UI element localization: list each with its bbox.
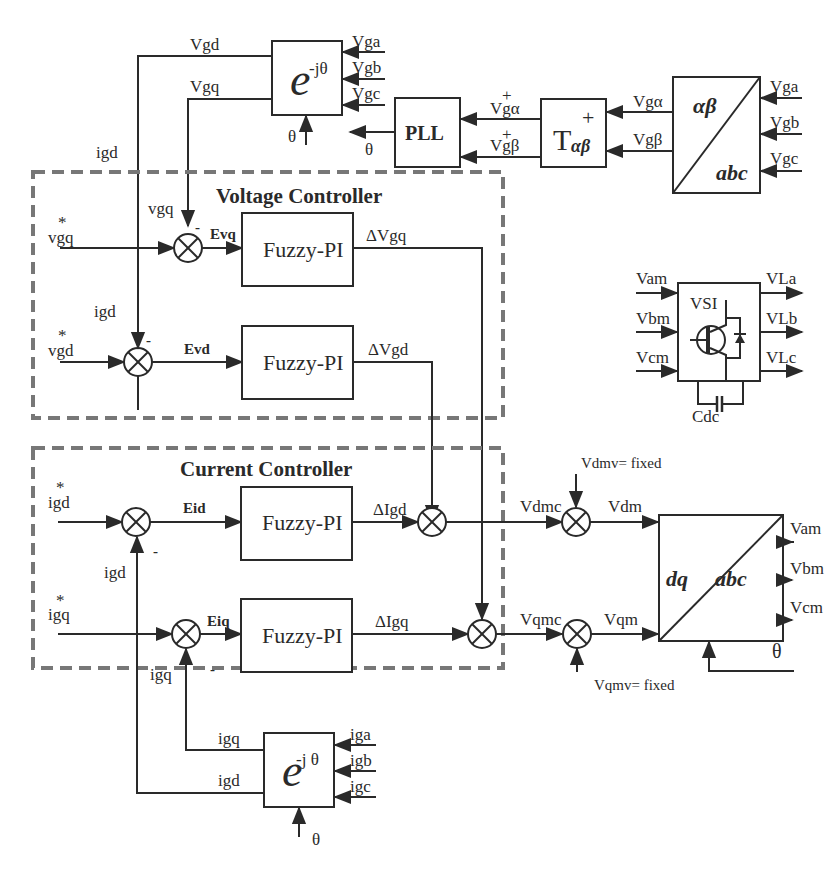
label-vgc: Vgc: [352, 84, 381, 103]
label-vgq-fb: vgq: [148, 199, 174, 218]
label-vqmv: Vqmv= fixed: [594, 677, 675, 693]
label-igq-out: igq: [218, 729, 240, 748]
label-igd-fb-vc: igd: [94, 302, 116, 321]
label-vlc: VLc: [766, 348, 797, 367]
clarke-bottom: abc: [716, 160, 748, 185]
star-igq: *: [56, 591, 65, 610]
star-vgq: *: [58, 213, 67, 232]
fuzzy-pi-vd-label: Fuzzy-PI: [263, 350, 344, 375]
label-evq: Evq: [210, 226, 237, 242]
label-theta-park-i: θ: [312, 830, 320, 849]
label-vdm: Vdm: [608, 497, 642, 516]
label-vqmc: Vqmc: [520, 610, 562, 629]
label-clarke-vgc: Vgc: [770, 149, 799, 168]
inverse-park-block: dq abc Vam Vbm Vcm θ: [659, 515, 824, 671]
label-igd-fb: igd: [104, 563, 126, 582]
label-out-vbm: Vbm: [790, 559, 824, 578]
t-sup: +: [582, 105, 594, 130]
label-vqm: Vqm: [604, 610, 638, 629]
inv-park-left: dq: [666, 566, 688, 591]
label-theta-inv: θ: [772, 640, 782, 662]
voltage-controller-title: Voltage Controller: [216, 184, 382, 208]
label-igb: igb: [350, 751, 372, 770]
label-theta-pll: θ: [365, 140, 373, 159]
fuzzy-pi-id-label: Fuzzy-PI: [262, 510, 343, 535]
minus-vgq: -: [195, 219, 200, 235]
label-vsi-vcm: Vcm: [636, 348, 669, 367]
minus-vgd: -: [146, 332, 151, 348]
park-transform-current: e -j θ iga igb igc θ igq igd: [137, 537, 376, 849]
t-label: T: [553, 123, 571, 156]
label-vg-beta: Vgβ: [633, 130, 662, 149]
label-evd: Evd: [184, 341, 211, 357]
label-vsi-vbm: Vbm: [636, 309, 670, 328]
fuzzy-pi-vq-label: Fuzzy-PI: [263, 237, 344, 262]
label-dvgd: ΔVgd: [368, 340, 409, 359]
modulation-section: Vdmc Vdmv= fixed Vdm Vqmc Vqmv= fixed Vq…: [446, 455, 675, 693]
label-cdc: Cdc: [692, 407, 720, 426]
label-vgb: Vgb: [352, 58, 381, 77]
park-exponent: -jθ: [309, 59, 328, 78]
label-vla: VLa: [766, 269, 797, 288]
park-base: e: [290, 54, 310, 105]
minus-igd: -: [153, 543, 158, 559]
label-eid: Eid: [183, 500, 206, 516]
label-igd-out: igd: [218, 771, 240, 790]
star-vgd: *: [58, 326, 67, 345]
label-out-vam: Vam: [790, 519, 821, 538]
minus-igq: -: [210, 661, 215, 677]
clarke-transform-block: αβ abc Vga Vgb Vgc: [673, 77, 802, 193]
label-clarke-vga: Vga: [770, 77, 799, 96]
park-i-exponent: -j θ: [296, 750, 319, 769]
label-vgq: Vgq: [190, 77, 220, 96]
clarke-top: αβ: [693, 93, 717, 118]
label-dvgq: ΔVgq: [366, 226, 407, 245]
label-eiq: Eiq: [207, 613, 230, 629]
control-block-diagram: e -jθ Vga Vgb Vgc θ Vgd Vgq PLL θ Vgα + …: [0, 0, 826, 873]
vsi-block: VSI Vam Vbm Vcm VLa VLb VLc Cdc: [636, 269, 802, 426]
t-sub: αβ: [571, 136, 591, 156]
label-igq-fb: igq: [150, 665, 172, 684]
label-vg-alpha: Vgα: [633, 92, 663, 111]
fuzzy-pi-iq-label: Fuzzy-PI: [262, 623, 343, 648]
plus-alpha: +: [502, 86, 512, 105]
label-digd: ΔIgd: [373, 500, 407, 519]
label-theta-park-v: θ: [288, 127, 296, 146]
label-igc: igc: [350, 777, 371, 796]
label-vdmv: Vdmv= fixed: [581, 455, 662, 471]
label-vga: Vga: [352, 32, 381, 51]
label-igd-fb-v: igd: [96, 143, 118, 162]
inv-park-right: abc: [715, 566, 747, 591]
t-alphabeta-block: T αβ + Vgα Vgβ: [541, 92, 673, 167]
label-iga: iga: [350, 725, 371, 744]
label-clarke-vgb: Vgb: [770, 113, 799, 132]
label-digq: ΔIgq: [375, 612, 409, 631]
plus-beta: +: [502, 125, 512, 144]
vsi-label: VSI: [690, 294, 718, 313]
label-out-vcm: Vcm: [790, 598, 823, 617]
label-vlb: VLb: [766, 309, 797, 328]
pll-label: PLL: [405, 122, 444, 144]
current-controller-title: Current Controller: [180, 457, 352, 481]
star-igd: *: [56, 478, 65, 497]
label-vsi-vam: Vam: [636, 269, 667, 288]
label-vdmc: Vdmc: [520, 497, 562, 516]
label-vgd: Vgd: [190, 35, 220, 54]
